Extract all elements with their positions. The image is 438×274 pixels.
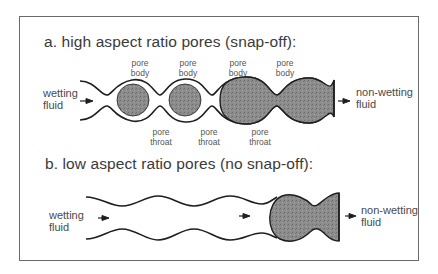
nonwetting-blob-b — [270, 193, 339, 241]
panel-a-inlet-arrow — [80, 99, 93, 104]
pore-diagram-drawing — [0, 0, 438, 274]
trapped-globule-1 — [117, 84, 149, 116]
panel-b-channel — [86, 196, 277, 240]
panel-b-outlet-arrow — [345, 214, 356, 219]
trapped-globule-2 — [169, 84, 201, 116]
panel-a-outlet-arrow — [338, 99, 350, 104]
panel-b-inlet-arrow — [98, 216, 109, 221]
continuous-nonwetting-phase — [220, 77, 334, 124]
panel-b-mid-arrow — [239, 214, 250, 219]
